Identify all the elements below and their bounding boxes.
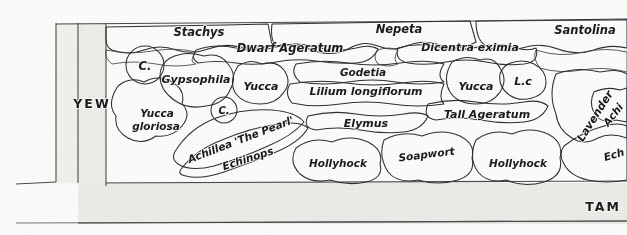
paper-grain-overlay <box>0 0 627 235</box>
garden-plan-page: Stachys Nepeta Santolina Dwarf Ageratum … <box>0 0 627 235</box>
planting-plan-drawing: Stachys Nepeta Santolina Dwarf Ageratum … <box>0 0 627 235</box>
